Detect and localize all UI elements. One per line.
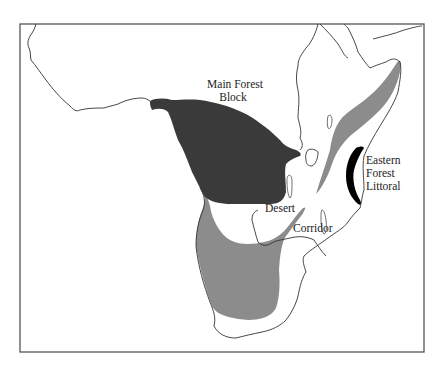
label-desert: Desert <box>265 202 296 214</box>
label-main-forest-line2: Block <box>219 91 247 103</box>
label-eastern-line1: Eastern <box>366 154 401 166</box>
label-eastern-line2: Forest <box>366 167 396 179</box>
lake-turkana <box>327 115 332 128</box>
label-corridor: Corridor <box>293 222 333 234</box>
africa-forest-map: Main Forest Block Eastern Forest Littora… <box>0 0 444 371</box>
label-main-forest-line1: Main Forest <box>207 78 264 90</box>
label-eastern-line3: Littoral <box>366 180 401 192</box>
